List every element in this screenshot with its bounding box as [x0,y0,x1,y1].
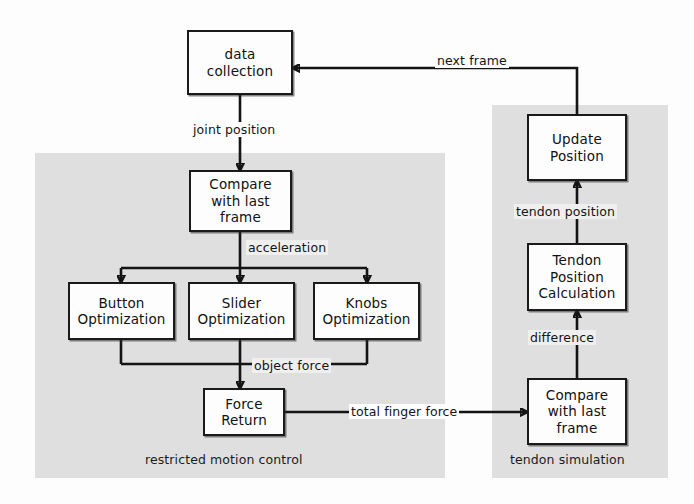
node-compare-with-last-frame-left-label: Comparewith lastframe [206,176,274,225]
node-compare-with-last-frame-right-label: Comparewith lastframe [543,387,611,436]
node-button-optimization[interactable]: ButtonOptimization [68,282,175,340]
edge-label-object-force: object force [252,358,331,373]
panel-label-tendon-simulation: tendon simulation [510,452,625,467]
edge-label-tendon-position: tendon position [514,204,617,219]
node-tendon-position-calculation-label: TendonPositionCalculation [536,252,619,301]
panel-label-restricted-motion-control: restricted motion control [145,452,303,467]
node-knobs-optimization-label: KnobsOptimization [319,295,413,328]
edge-label-joint-position: joint position [191,122,277,137]
edge-label-acceleration: acceleration [246,240,328,255]
node-update-position-label: UpdatePosition [547,131,607,164]
node-button-optimization-label: ButtonOptimization [74,295,168,328]
edge-label-next-frame: next frame [435,53,509,68]
edge-label-difference: difference [528,330,596,345]
node-compare-with-last-frame-left[interactable]: Comparewith lastframe [189,170,292,232]
node-tendon-position-calculation[interactable]: TendonPositionCalculation [527,243,627,311]
node-slider-optimization[interactable]: SliderOptimization [188,282,295,340]
node-data-collection-label: datacollection [204,46,276,79]
flowchart-diagram: datacollection Comparewith lastframe But… [0,0,694,504]
node-compare-with-last-frame-right[interactable]: Comparewith lastframe [527,378,627,445]
node-force-return-label: ForceReturn [218,396,270,429]
node-force-return[interactable]: ForceReturn [203,388,285,436]
node-update-position[interactable]: UpdatePosition [527,114,627,181]
node-data-collection[interactable]: datacollection [187,30,293,95]
edge-label-total-finger-force: total finger force [349,404,459,419]
node-slider-optimization-label: SliderOptimization [194,295,288,328]
node-knobs-optimization[interactable]: KnobsOptimization [313,282,420,340]
